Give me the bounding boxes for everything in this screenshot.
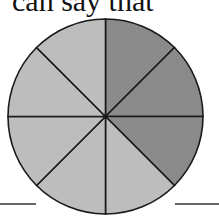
fraction-circle	[0, 0, 219, 217]
pie-sectors	[8, 19, 203, 214]
center-point	[103, 114, 107, 118]
